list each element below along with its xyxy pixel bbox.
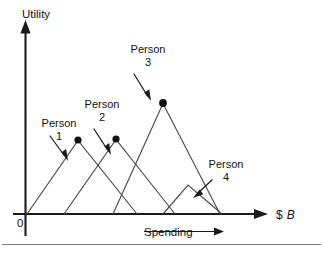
peak-dot-person-3 <box>159 99 167 107</box>
annotation-person-4: Person 4 <box>209 158 244 183</box>
annotation-person-1-line1: Person <box>42 117 77 129</box>
curve-person-1 <box>27 141 137 215</box>
utility-spending-figure: Utility 0 Spending $B Person 1 Person 2 … <box>0 0 323 256</box>
peak-dot-person-1 <box>74 136 81 143</box>
leader-line-person-2 <box>94 129 107 149</box>
annotation-person-2-line1: Person <box>85 98 120 110</box>
curve-person-3 <box>113 104 220 215</box>
chart-canvas: Utility 0 Spending $B Person 1 Person 2 … <box>0 0 323 256</box>
annotation-person-1-line2: 1 <box>56 130 62 142</box>
curve-person-2 <box>64 140 175 215</box>
x-axis <box>13 209 268 219</box>
annotation-person-4-line2: 4 <box>223 171 229 183</box>
peak-dot-person-2 <box>112 135 119 142</box>
leader-arrows <box>50 74 212 198</box>
spending-arrowhead-icon <box>214 228 224 236</box>
annotation-person-2: Person 2 <box>85 98 120 123</box>
annotation-person-1: Person 1 <box>42 117 77 142</box>
x-axis-label: $B <box>276 208 295 222</box>
annotation-person-4-line1: Person <box>209 158 244 170</box>
leader-line-person-3 <box>134 74 147 95</box>
x-axis-label-variable: B <box>287 208 295 222</box>
x-axis-caption: Spending <box>144 226 193 238</box>
annotation-person-3: Person 3 <box>131 43 166 68</box>
origin-label: 0 <box>17 217 23 229</box>
x-axis-label-prefix: $ <box>276 208 283 222</box>
y-axis-arrowhead-icon <box>20 20 30 34</box>
annotation-person-2-line2: 2 <box>99 111 105 123</box>
y-axis-label: Utility <box>22 8 50 20</box>
y-axis <box>20 20 30 236</box>
leader-arrowhead-person-2 <box>104 143 111 155</box>
annotation-person-3-line1: Person <box>131 43 166 55</box>
annotation-person-3-line2: 3 <box>145 56 151 68</box>
x-axis-arrowhead-icon <box>254 209 268 219</box>
